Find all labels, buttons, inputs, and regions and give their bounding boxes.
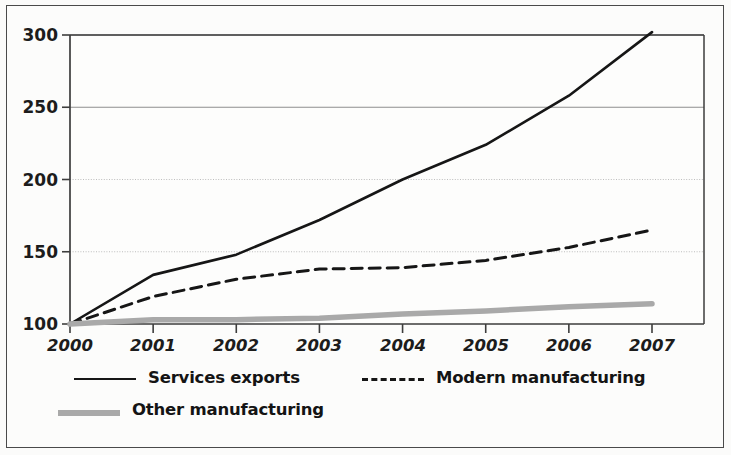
- legend-item-other-manufacturing[interactable]: Other manufacturing: [58, 400, 324, 419]
- y-tick-label-200: 200: [12, 170, 58, 190]
- thick-gray-line-swatch: [58, 403, 120, 417]
- y-tick-label-150: 150: [12, 242, 58, 262]
- legend-label-modern-manufacturing: Modern manufacturing: [436, 368, 645, 387]
- legend-label-other-manufacturing: Other manufacturing: [132, 400, 324, 419]
- y-tick-label-300: 300: [12, 25, 58, 45]
- x-tick-label-2003: 2003: [284, 336, 354, 355]
- y-tick-label-250: 250: [12, 97, 58, 117]
- x-tick-label-2004: 2004: [368, 336, 438, 355]
- x-tick-label-2005: 2005: [451, 336, 521, 355]
- x-tick-label-2007: 2007: [617, 336, 687, 355]
- legend-item-modern-manufacturing[interactable]: Modern manufacturing: [362, 368, 645, 387]
- solid-line-swatch: [74, 371, 136, 385]
- x-tick-label-2002: 2002: [201, 336, 271, 355]
- y-tick-label-100: 100: [12, 314, 58, 334]
- dashed-line-swatch: [362, 371, 424, 385]
- chart-page: 100 150 200 250 300 2000 2001 2002 2003 …: [0, 0, 731, 455]
- legend-item-services-exports[interactable]: Services exports: [74, 368, 300, 387]
- x-tick-label-2006: 2006: [534, 336, 604, 355]
- x-tick-label-2000: 2000: [35, 336, 105, 355]
- x-tick-label-2001: 2001: [118, 336, 188, 355]
- legend-label-services-exports: Services exports: [148, 368, 300, 387]
